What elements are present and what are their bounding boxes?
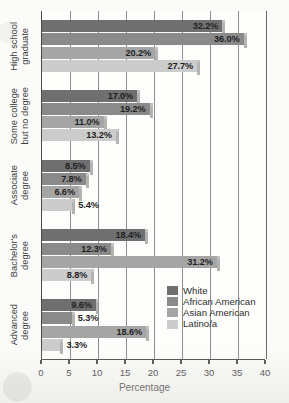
bar-value-label: 19.2% [120, 104, 146, 114]
bar-depth-cap [72, 312, 75, 315]
x-tick-label-5: 5 [66, 367, 71, 378]
bar-depth-shadow [72, 202, 75, 214]
bar-depth-shadow [150, 106, 153, 118]
x-tick-label-0: 0 [38, 367, 43, 378]
bar-depth-shadow [146, 329, 149, 341]
bar: 7.8% [42, 173, 89, 185]
bar-value-label: 17.0% [108, 91, 134, 101]
bar-fill [42, 199, 72, 211]
bar-depth-cap [111, 243, 114, 246]
bar-depth-cap [244, 33, 247, 36]
bar-value-label: 11.0% [75, 117, 100, 127]
bar-value-label: 9.6% [71, 300, 92, 310]
legend-swatch [167, 297, 178, 306]
x-tick-label-20: 20 [148, 367, 159, 378]
bar-value-label: 20.2% [126, 48, 152, 58]
y-category-label: Bachelor'sdegree [0, 220, 40, 290]
bar-value-label: 27.7% [168, 61, 194, 71]
y-category-line: but no degree [21, 87, 30, 144]
bar-depth-shadow [60, 342, 63, 354]
bar: 20.2% [42, 47, 158, 59]
bar: 27.7% [42, 60, 200, 72]
bar-depth-cap [79, 186, 82, 189]
bar: 11.0% [42, 116, 107, 128]
y-category-line: Bachelor's [10, 234, 19, 277]
y-category-label: High schoolgraduate [0, 11, 40, 81]
x-tick-25 [180, 360, 181, 364]
bar-value-label: 36.0% [214, 34, 240, 44]
bar-value-label: 5.3% [78, 313, 99, 323]
bar-depth-cap [145, 229, 148, 232]
bar-value-label: 12.3% [81, 244, 107, 254]
x-tick-5 [68, 360, 69, 364]
bar: 17.0% [42, 90, 140, 102]
bar-fill [42, 339, 60, 351]
bar-depth-cap [150, 103, 153, 106]
bar-depth-cap [91, 269, 94, 272]
bar: 18.4% [42, 229, 148, 241]
legend-swatch [167, 320, 178, 329]
bar-value-label: 7.8% [61, 174, 82, 184]
y-category-line: degree [21, 241, 30, 270]
bar: 8.5% [42, 160, 93, 172]
y-category-label: Some collegebut no degree [0, 81, 40, 151]
bar-depth-shadow [86, 176, 89, 188]
bar-value-label: 3.3% [66, 340, 87, 350]
bar-value-label: 31.2% [187, 257, 213, 267]
y-category-label: Associatedegree [0, 151, 40, 221]
bar-depth-cap [60, 339, 63, 342]
bar: 5.4% [42, 199, 75, 211]
bar-depth-cap [155, 47, 158, 50]
x-tick-label-35: 35 [232, 367, 243, 378]
bar-depth-shadow [91, 272, 94, 284]
x-tick-35 [236, 360, 237, 364]
legend-label: Asian American [183, 308, 250, 318]
bar-fill [42, 312, 72, 324]
bar-depth-shadow [90, 163, 93, 175]
bar-value-label: 6.6% [54, 187, 75, 197]
bar: 19.2% [42, 103, 153, 115]
legend-swatch [167, 286, 178, 295]
bar: 3.3% [42, 339, 63, 351]
bar: 6.6% [42, 186, 82, 198]
bar: 8.8% [42, 269, 94, 281]
x-tick-20 [152, 360, 153, 364]
y-category-line: degree [21, 171, 30, 200]
bar-group: 17.0%19.2%11.0%13.2% [42, 81, 265, 151]
y-category-line: Associate [10, 165, 19, 205]
bar-value-label: 32.2% [193, 21, 219, 31]
y-category-line: graduate [21, 28, 30, 65]
bar-depth-cap [104, 116, 107, 119]
bar-depth-cap [217, 256, 220, 259]
bar-depth-cap [222, 20, 225, 23]
bar-depth-cap [90, 160, 93, 163]
bar: 12.3% [42, 243, 114, 255]
legend-label: White [183, 286, 208, 296]
bar-depth-shadow [145, 232, 148, 244]
x-tick-label-40: 40 [260, 367, 271, 378]
bar: 5.3% [42, 312, 75, 324]
x-axis-title: Percentage [0, 382, 289, 393]
bar-depth-shadow [96, 302, 99, 314]
y-category-line: Some college [10, 88, 19, 144]
bar-depth-cap [96, 299, 99, 302]
x-tick-10 [96, 360, 97, 364]
bar-depth-shadow [116, 132, 119, 144]
bar: 9.6% [42, 299, 99, 311]
bar-depth-cap [197, 60, 200, 63]
bar-depth-cap [146, 326, 149, 329]
bar-depth-shadow [244, 36, 247, 48]
bar-depth-cap [137, 90, 140, 93]
x-tick-15 [124, 360, 125, 364]
x-tick-label-30: 30 [204, 367, 215, 378]
chart-legend: WhiteAfrican AmericanAsian AmericanLatin… [167, 286, 256, 329]
bar-depth-cap [116, 129, 119, 132]
legend-label: African American [183, 297, 256, 307]
bar-value-label: 18.6% [117, 327, 143, 337]
legend-swatch [167, 308, 178, 317]
gridline-40 [266, 11, 267, 359]
bar-value-label: 18.4% [115, 230, 141, 240]
y-category-line: Advanced [10, 304, 19, 345]
bar-group: 32.2%36.0%20.2%27.7% [42, 11, 265, 81]
bar-depth-shadow [197, 63, 200, 75]
